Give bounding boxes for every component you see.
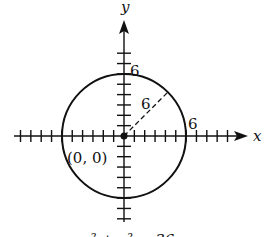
x-intercept-label: 6 (188, 115, 198, 133)
center-label: (0, 0) (67, 149, 107, 167)
radius-label: 6 (141, 95, 151, 113)
y-intercept-label: 6 (130, 62, 140, 80)
y-axis (117, 30, 131, 222)
circle-diagram: y x 6 6 6 (0, 0) x² + y² = 36 (0, 0, 266, 237)
x-axis-label: x (253, 127, 262, 145)
center-point (121, 133, 128, 140)
y-axis-label: y (120, 0, 130, 16)
equation: x² + y² = 36 (82, 231, 175, 237)
